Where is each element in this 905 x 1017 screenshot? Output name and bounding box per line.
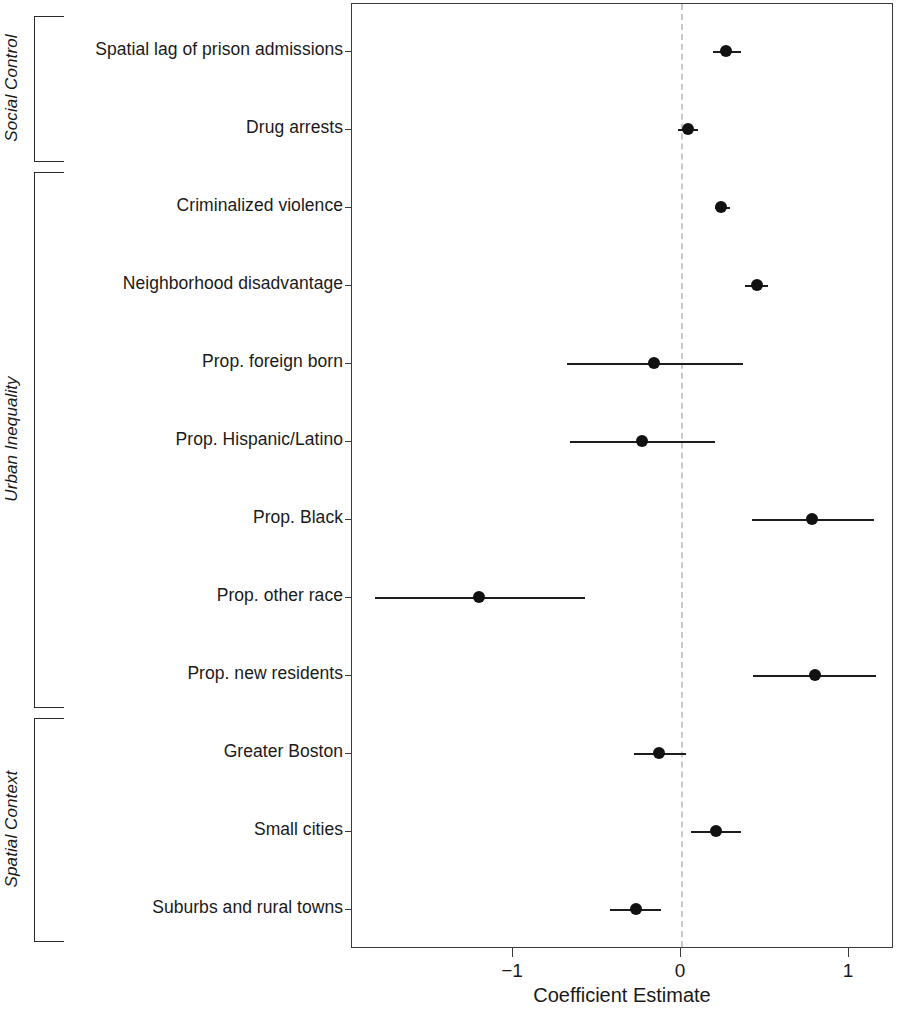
row-label-8: Prop. new residents bbox=[187, 665, 343, 683]
row-label-6: Prop. Black bbox=[253, 509, 343, 527]
x-axis-tick bbox=[680, 948, 681, 957]
row-tick bbox=[345, 519, 352, 520]
estimate-point bbox=[648, 357, 660, 369]
coefficient-plot-figure: Social ControlUrban InequalitySpatial Co… bbox=[0, 0, 905, 1017]
estimate-point bbox=[636, 435, 648, 447]
row-tick bbox=[345, 909, 352, 910]
row-tick bbox=[345, 51, 352, 52]
group-bracket-1 bbox=[34, 172, 64, 708]
row-label-1: Drug arrests bbox=[246, 119, 343, 137]
x-axis-tick bbox=[512, 948, 513, 957]
plot-panel bbox=[351, 3, 893, 948]
row-tick bbox=[345, 597, 352, 598]
plot-area bbox=[352, 4, 892, 947]
row-label-9: Greater Boston bbox=[224, 743, 343, 761]
x-axis-title: Coefficient Estimate bbox=[351, 984, 893, 1007]
row-label-4: Prop. foreign born bbox=[202, 353, 343, 371]
row-tick bbox=[345, 129, 352, 130]
group-label-0: Social Control bbox=[2, 15, 22, 161]
group-bracket-2 bbox=[34, 718, 64, 942]
x-axis-tick-label: 0 bbox=[675, 960, 686, 982]
estimate-point bbox=[653, 747, 665, 759]
x-axis-tick-label: 1 bbox=[843, 960, 854, 982]
row-tick bbox=[345, 831, 352, 832]
row-tick bbox=[345, 285, 352, 286]
estimate-point bbox=[682, 123, 694, 135]
estimate-point bbox=[715, 201, 727, 213]
x-axis-tick-label: −1 bbox=[501, 960, 523, 982]
estimate-point bbox=[806, 513, 818, 525]
group-label-2: Spatial Context bbox=[2, 717, 22, 941]
group-bracket-0 bbox=[34, 16, 64, 162]
row-label-7: Prop. other race bbox=[217, 587, 343, 605]
row-tick bbox=[345, 441, 352, 442]
row-label-2: Criminalized violence bbox=[177, 197, 343, 215]
row-label-0: Spatial lag of prison admissions bbox=[95, 41, 343, 59]
estimate-point bbox=[630, 903, 642, 915]
row-label-5: Prop. Hispanic/Latino bbox=[176, 431, 343, 449]
row-tick bbox=[345, 363, 352, 364]
group-label-1: Urban Inequality bbox=[2, 171, 22, 707]
estimate-point bbox=[710, 825, 722, 837]
estimate-point bbox=[809, 669, 821, 681]
row-label-column: Spatial lag of prison admissionsDrug arr… bbox=[70, 0, 343, 1017]
row-label-11: Suburbs and rural towns bbox=[152, 899, 343, 917]
row-label-10: Small cities bbox=[254, 821, 343, 839]
zero-reference-line bbox=[681, 4, 683, 947]
row-tick bbox=[345, 207, 352, 208]
estimate-point bbox=[473, 591, 485, 603]
x-axis-tick bbox=[848, 948, 849, 957]
estimate-point bbox=[720, 45, 732, 57]
row-label-3: Neighborhood disadvantage bbox=[123, 275, 343, 293]
row-tick bbox=[345, 753, 352, 754]
row-tick bbox=[345, 675, 352, 676]
estimate-point bbox=[751, 279, 763, 291]
